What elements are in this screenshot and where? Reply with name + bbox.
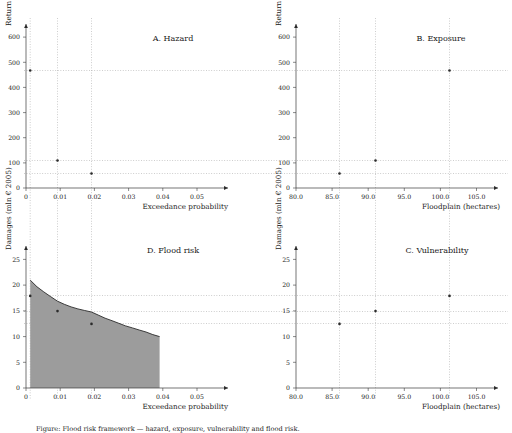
panel-a-title: A. Hazard [152, 34, 194, 43]
panel-a-x-arrow [224, 186, 228, 190]
panel-d-ylabel: Damages (mln € 2005) [4, 167, 13, 250]
panel-c-point-1 [374, 310, 377, 313]
panel-a-point-0 [29, 69, 32, 72]
panel-c-xtick-3: 95.0 [397, 393, 411, 400]
panel-b-xlabel: Floodplain (hectares) [422, 202, 500, 211]
panel-c-ytick-3: 15 [282, 307, 290, 314]
panel-a-ytick-5: 500 [8, 59, 20, 66]
panel-c-ytick-2: 10 [282, 333, 290, 340]
panel-c-data-points [338, 295, 451, 326]
panel-c-point-2 [448, 295, 451, 298]
panel-b-x-arrow [494, 186, 498, 190]
panel-a-y-arrow [24, 24, 28, 28]
panel-c-xtick-5: 105.0 [468, 393, 486, 400]
panel-a-xtick-0: 0 [24, 193, 28, 200]
panel-a-ylabel: Return period [4, 0, 13, 26]
panel-c-xtick-0: 80.0 [289, 393, 303, 400]
panel-b-ytick-3: 300 [278, 109, 290, 116]
panel-c-y-arrow [294, 246, 298, 250]
panel-c-xtick-2: 90.0 [361, 393, 375, 400]
panel-a-ytick-0: 0 [16, 184, 20, 191]
panel-d-xtick-2: 0.02 [88, 393, 102, 400]
panel-c-ytick-1: 5 [286, 359, 290, 366]
panel-d-xtick-3: 0.03 [122, 393, 136, 400]
panel-d-y-ticks: 0 5 10 15 20 25 [12, 256, 26, 392]
panel-c-x-ticks: 80.0 85.0 90.0 95.0 100.0 105.0 [289, 388, 485, 400]
panel-a-x-ticks: 0 0.01 0.02 0.03 0.04 0.05 [24, 188, 204, 200]
panel-d-ytick-2: 10 [12, 333, 20, 340]
panel-c-point-0 [338, 323, 341, 326]
panel-b-ytick-1: 100 [278, 159, 290, 166]
panel-d-marker-1 [56, 310, 59, 313]
figure-canvas: 0 0.01 0.02 0.03 0.04 0.05 0 100 200 300 [0, 0, 512, 433]
panel-d-x-arrow [224, 386, 228, 390]
panel-a-xtick-5: 0.05 [190, 193, 204, 200]
panel-b-ytick-0: 0 [286, 184, 290, 191]
panel-d-ytick-4: 20 [12, 281, 20, 288]
panel-c-ytick-5: 25 [282, 256, 290, 263]
panel-a-data-points [29, 69, 93, 175]
panel-d-title: D. Flood risk [147, 246, 199, 255]
panel-b-ylabel: Return period [274, 0, 283, 26]
panel-d-xtick-0: 0 [24, 393, 28, 400]
panel-b-title: B. Exposure [416, 34, 465, 43]
panel-a-point-1 [56, 159, 59, 162]
panel-c-xtick-4: 100.0 [432, 393, 450, 400]
panel-d-y-arrow [24, 246, 28, 250]
panel-b-point-1 [374, 159, 377, 162]
panel-c-xtick-1: 85.0 [325, 393, 339, 400]
panel-b-xtick-1: 85.0 [325, 193, 339, 200]
panel-a-xtick-2: 0.02 [88, 193, 102, 200]
flood-risk-figure: 0 0.01 0.02 0.03 0.04 0.05 0 100 200 300 [0, 0, 512, 433]
panel-b-data-points [338, 69, 451, 175]
panel-c-x-arrow [494, 386, 498, 390]
panel-a-xtick-1: 0.01 [53, 193, 67, 200]
figure-caption: Figure: Flood risk framework — hazard, e… [36, 425, 299, 433]
panel-d-ytick-0: 0 [16, 384, 20, 391]
panel-b-xtick-3: 95.0 [397, 193, 411, 200]
panel-d-xtick-5: 0.05 [190, 393, 204, 400]
panel-b-exposure: 80.0 85.0 90.0 95.0 100.0 105.0 0 100 20… [274, 0, 500, 211]
panel-c-ytick-4: 20 [282, 281, 290, 288]
panel-b-y-arrow [294, 24, 298, 28]
panel-a-ytick-2: 200 [8, 134, 20, 141]
panel-b-ytick-5: 500 [278, 59, 290, 66]
panel-c-ylabel: Damages (mln € 2005) [274, 167, 283, 250]
panel-c-ytick-0: 0 [286, 384, 290, 391]
panel-a-xtick-4: 0.04 [156, 193, 170, 200]
panel-b-point-2 [448, 69, 451, 72]
panel-b-ytick-4: 400 [278, 84, 290, 91]
panel-b-x-ticks: 80.0 85.0 90.0 95.0 100.0 105.0 [289, 188, 485, 200]
panel-d-xtick-4: 0.04 [156, 393, 170, 400]
panel-d-ytick-1: 5 [16, 359, 20, 366]
panel-d-ytick-3: 15 [12, 307, 20, 314]
panel-d-ytick-5: 25 [12, 256, 20, 263]
panel-b-xtick-4: 100.0 [432, 193, 450, 200]
panel-b-ytick-6: 600 [278, 33, 290, 40]
panel-d-marker-0 [29, 295, 32, 298]
panel-a-xtick-3: 0.03 [122, 193, 136, 200]
panel-d-xtick-1: 0.01 [53, 393, 67, 400]
panel-a-ytick-3: 300 [8, 109, 20, 116]
panel-c-xlabel: Floodplain (hectares) [422, 402, 500, 411]
panel-c-title: C. Vulnerability [406, 246, 469, 255]
panel-d-area-group [30, 280, 159, 388]
panel-d-x-ticks: 0 0.01 0.02 0.03 0.04 0.05 [24, 388, 204, 400]
panel-b-point-0 [338, 172, 341, 175]
panel-d-xlabel: Exceedance probability [142, 402, 229, 411]
panel-a-ytick-4: 400 [8, 84, 20, 91]
panel-b-xtick-5: 105.0 [468, 193, 486, 200]
panel-a-ytick-1: 100 [8, 159, 20, 166]
panel-b-xtick-0: 80.0 [289, 193, 303, 200]
panel-b-xtick-2: 90.0 [361, 193, 375, 200]
panel-b-ytick-2: 200 [278, 134, 290, 141]
panel-a-xlabel: Exceedance probability [142, 202, 229, 211]
panel-a-point-2 [90, 172, 93, 175]
panel-a-ytick-6: 600 [8, 33, 20, 40]
panel-d-marker-2 [90, 323, 93, 326]
panel-a-hazard: 0 0.01 0.02 0.03 0.04 0.05 0 100 200 300 [4, 0, 229, 211]
